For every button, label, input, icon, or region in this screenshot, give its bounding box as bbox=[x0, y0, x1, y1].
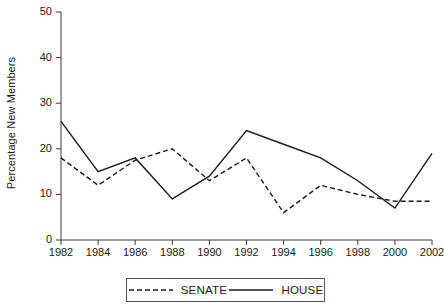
legend-label-senate: SENATE bbox=[181, 284, 227, 296]
chart-legend: SENATE HOUSE bbox=[126, 278, 325, 302]
data-series bbox=[61, 121, 432, 212]
legend-swatch-solid-line bbox=[228, 286, 274, 294]
series-line-senate bbox=[61, 149, 432, 213]
legend-swatch-dashed-line bbox=[128, 286, 174, 294]
axis-lines bbox=[61, 12, 432, 240]
legend-entry-house: HOUSE bbox=[228, 284, 323, 296]
legend-entry-senate: SENATE bbox=[128, 284, 227, 296]
legend-label-house: HOUSE bbox=[281, 284, 323, 296]
axis-ticks bbox=[56, 12, 432, 245]
series-line-house bbox=[61, 121, 432, 208]
